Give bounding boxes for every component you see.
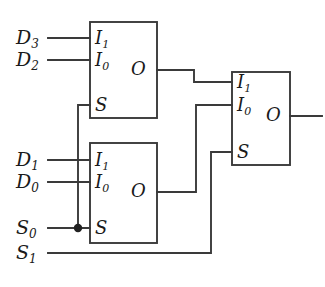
mux-bottom-i1-subscript: 1 bbox=[102, 160, 109, 173]
wire-mux-bottom-o-to-mux-right-i0 bbox=[157, 105, 232, 192]
mux-top-o-name: O bbox=[131, 58, 146, 79]
mux-top-port-i1: I1 bbox=[95, 29, 109, 47]
mux-top-port-s: S bbox=[95, 96, 107, 114]
mux-bottom-port-s: S bbox=[95, 219, 107, 237]
mux-right-port-s: S bbox=[237, 143, 249, 161]
input-s1-name: S bbox=[16, 241, 29, 263]
mux-top-port-o: O bbox=[131, 60, 146, 78]
input-d2-name: D bbox=[16, 48, 31, 70]
mux-right-port-i0: I0 bbox=[237, 96, 251, 114]
input-d1-name: D bbox=[16, 148, 31, 170]
mux-right-port-i1: I1 bbox=[237, 73, 251, 91]
input-label-d0: D0 bbox=[16, 172, 39, 191]
wire-s1-to-mux-right-s bbox=[48, 152, 232, 253]
mux-top-port-i0: I0 bbox=[95, 51, 109, 69]
mux-top-i1-subscript: 1 bbox=[102, 38, 109, 51]
mux-bottom-o-name: O bbox=[131, 180, 146, 201]
input-d2-subscript: 2 bbox=[31, 59, 39, 73]
input-label-d2: D2 bbox=[16, 50, 39, 69]
junction-dot-s0 bbox=[74, 224, 82, 232]
wire-s0-branch-to-mux-top-s bbox=[78, 105, 90, 228]
mux-bottom-s-name: S bbox=[95, 217, 107, 238]
input-d0-subscript: 0 bbox=[31, 181, 39, 195]
mux-bottom-port-o: O bbox=[131, 182, 146, 200]
mux-bottom-i0-subscript: 0 bbox=[102, 182, 109, 195]
input-d3-subscript: 3 bbox=[31, 37, 39, 51]
mux-right-i0-subscript: 0 bbox=[244, 105, 251, 118]
mux-top-s-name: S bbox=[95, 94, 107, 115]
input-s0-name: S bbox=[16, 216, 29, 238]
mux-right-o-name: O bbox=[266, 104, 281, 125]
mux-right-i1-subscript: 1 bbox=[244, 82, 251, 95]
circuit-diagram: D3 D2 D1 D0 S0 S1 I1 I0 S O I1 I0 S O bbox=[0, 0, 325, 287]
circuit-svg bbox=[0, 0, 325, 287]
input-label-d1: D1 bbox=[16, 150, 39, 169]
mux-top-i0-subscript: 0 bbox=[102, 60, 109, 73]
input-s1-subscript: 1 bbox=[29, 252, 37, 266]
mux-bottom-port-i0: I0 bbox=[95, 173, 109, 191]
input-label-s1: S1 bbox=[16, 243, 37, 262]
input-label-s0: S0 bbox=[16, 218, 37, 237]
input-d3-name: D bbox=[16, 26, 31, 48]
wire-mux-top-o-to-mux-right-i1 bbox=[157, 70, 232, 82]
mux-right-s-name: S bbox=[237, 141, 249, 162]
input-d1-subscript: 1 bbox=[31, 159, 39, 173]
mux-bottom-port-i1: I1 bbox=[95, 151, 109, 169]
mux-right-port-o: O bbox=[266, 106, 281, 124]
input-s0-subscript: 0 bbox=[29, 227, 37, 241]
input-d0-name: D bbox=[16, 170, 31, 192]
input-label-d3: D3 bbox=[16, 28, 39, 47]
